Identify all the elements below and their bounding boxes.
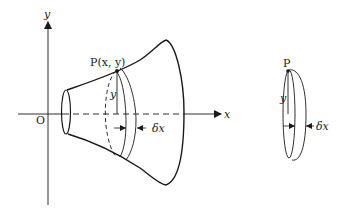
disc-slice: P y δx <box>279 57 330 160</box>
bottom-profile-curve <box>68 134 166 185</box>
x-axis-label: x <box>224 108 231 121</box>
volume-of-revolution-diagram: y x O P(x, y) y δx P y δx <box>0 0 349 214</box>
right-end-curve <box>166 40 184 185</box>
disc-dx-label: δx <box>316 120 330 133</box>
disc-point-p-label: P <box>283 57 291 70</box>
y-axis-label: y <box>43 8 51 21</box>
left-end-ellipse <box>62 90 71 134</box>
disc-back-edge <box>289 70 306 160</box>
dx-label: δx <box>152 122 166 135</box>
radius-label: y <box>109 88 117 101</box>
disc-front-ellipse <box>283 70 295 158</box>
origin-label: O <box>36 114 45 127</box>
point-p-label: P(x, y) <box>90 56 125 69</box>
disc-radius-label: y <box>279 92 287 105</box>
